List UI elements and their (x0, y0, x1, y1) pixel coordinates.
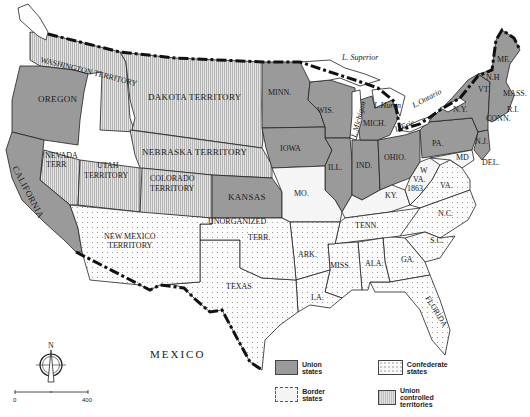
label-ohio: OHIO. (384, 153, 406, 162)
label-nevada: NEVADA (45, 151, 78, 160)
svg-text:N: N (48, 341, 54, 350)
label-lake-ontario: L.Ontario (410, 87, 443, 110)
label-unorganized-terr: TERR. (248, 233, 270, 242)
legend-item-territory: Union controlled territories (378, 387, 448, 408)
region-oregon (12, 66, 88, 145)
label-ill: ILL. (328, 163, 342, 172)
lake-superior (300, 60, 380, 86)
region-mississippi (325, 242, 362, 298)
label-conn: CONN. (486, 114, 511, 123)
legend-item-confederate: Confederate states (378, 360, 455, 375)
civil-war-map: OREGON CALIFORNIA WASHINGTON TERRITORY D… (0, 0, 530, 417)
label-va: VA. (440, 181, 453, 190)
border-swatch (275, 387, 298, 402)
label-ind: IND. (356, 161, 372, 170)
label-lake-huron: L.Huron (373, 101, 401, 110)
legend-label-confederate: Confederate states (407, 361, 455, 375)
label-utah: UTAH (97, 161, 119, 170)
label-colorado-territory: TERRITORY (150, 184, 195, 193)
label-sc: S.C. (430, 236, 444, 245)
label-miss: MISS. (330, 261, 351, 270)
label-nebraska-territory: NEBRASKA TERRITORY (142, 147, 248, 157)
legend-item-border: Border states (275, 387, 334, 402)
label-mo: MO. (294, 189, 309, 198)
label-wva-w: W (420, 166, 428, 175)
label-kansas: KANSAS (228, 192, 266, 202)
label-wis: WIS. (317, 106, 334, 115)
label-nj: N.J. (475, 137, 488, 146)
label-nc: N.C. (438, 209, 453, 218)
legend-item-union: Union states (275, 360, 331, 375)
label-minn: MINN. (268, 88, 291, 97)
territory-swatch (378, 390, 396, 405)
label-md: MD (456, 153, 469, 162)
label-new-mexico-territory: TERRITORY (108, 241, 153, 250)
label-ark: ARK. (298, 250, 317, 259)
label-utah-territory: TERRITORY (84, 171, 129, 180)
legend-label-border: Border states (302, 388, 334, 402)
label-mexico: MEXICO (150, 348, 205, 360)
label-tenn: TENN. (355, 221, 378, 230)
label-nevada-terr: TERR (46, 160, 67, 169)
label-vt: VT. (478, 85, 490, 94)
label-unorganized: UNORGANIZED (208, 217, 266, 226)
legend-label-union: Union states (302, 361, 331, 375)
label-ky: KY. (385, 191, 398, 200)
label-iowa: IOWA (280, 144, 301, 153)
confederate-swatch (378, 360, 403, 375)
label-colorado: COLORADO (150, 174, 195, 183)
label-mass: MASS. (503, 89, 527, 98)
compass-icon: N (36, 341, 66, 382)
label-del: DEL. (482, 158, 500, 167)
label-pa: PA. (432, 139, 444, 148)
label-texas: TEXAS (226, 282, 252, 291)
union-swatch (275, 360, 298, 375)
scale-bar: 0 400 (13, 390, 93, 403)
label-wva-1863: 1863 (407, 184, 423, 193)
label-ri: R.I. (507, 105, 519, 114)
label-new-mexico: NEW MEXICO (104, 232, 156, 241)
label-dakota-territory: DAKOTA TERRITORY (148, 92, 242, 102)
label-mich: MICH. (363, 119, 386, 128)
label-ny: N.Y. (453, 105, 468, 114)
label-me: ME. (497, 55, 511, 64)
svg-text:0: 0 (13, 397, 17, 403)
label-la: LA. (311, 293, 324, 302)
region-indiana (352, 140, 380, 200)
label-nh: N.H (486, 73, 500, 82)
label-oregon: OREGON (38, 94, 77, 104)
label-ala: ALA. (365, 259, 383, 268)
label-wva-va: VA. (413, 175, 426, 184)
label-lake-superior: L. Superior (341, 53, 379, 62)
svg-text:400: 400 (82, 397, 93, 403)
legend-label-territory: Union controlled territories (400, 387, 448, 408)
label-ga: GA. (401, 255, 415, 264)
